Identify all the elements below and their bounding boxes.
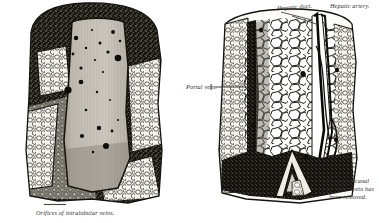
caption-left-figure: Orifices of intralobular veins. [36,209,115,217]
label-hepatic-duct: Hepatic duct. [277,1,313,12]
engraving-plate: Hepatic duct. Hepatic artery. Portal vei… [0,0,379,223]
label-portal-vein: Portal vein. [186,83,217,91]
label-canal-note: Portion of canal from which vein has bee… [322,177,374,201]
figure-left-hepatic-vein [20,0,170,210]
label-hepatic-artery: Hepatic artery. [330,2,370,10]
